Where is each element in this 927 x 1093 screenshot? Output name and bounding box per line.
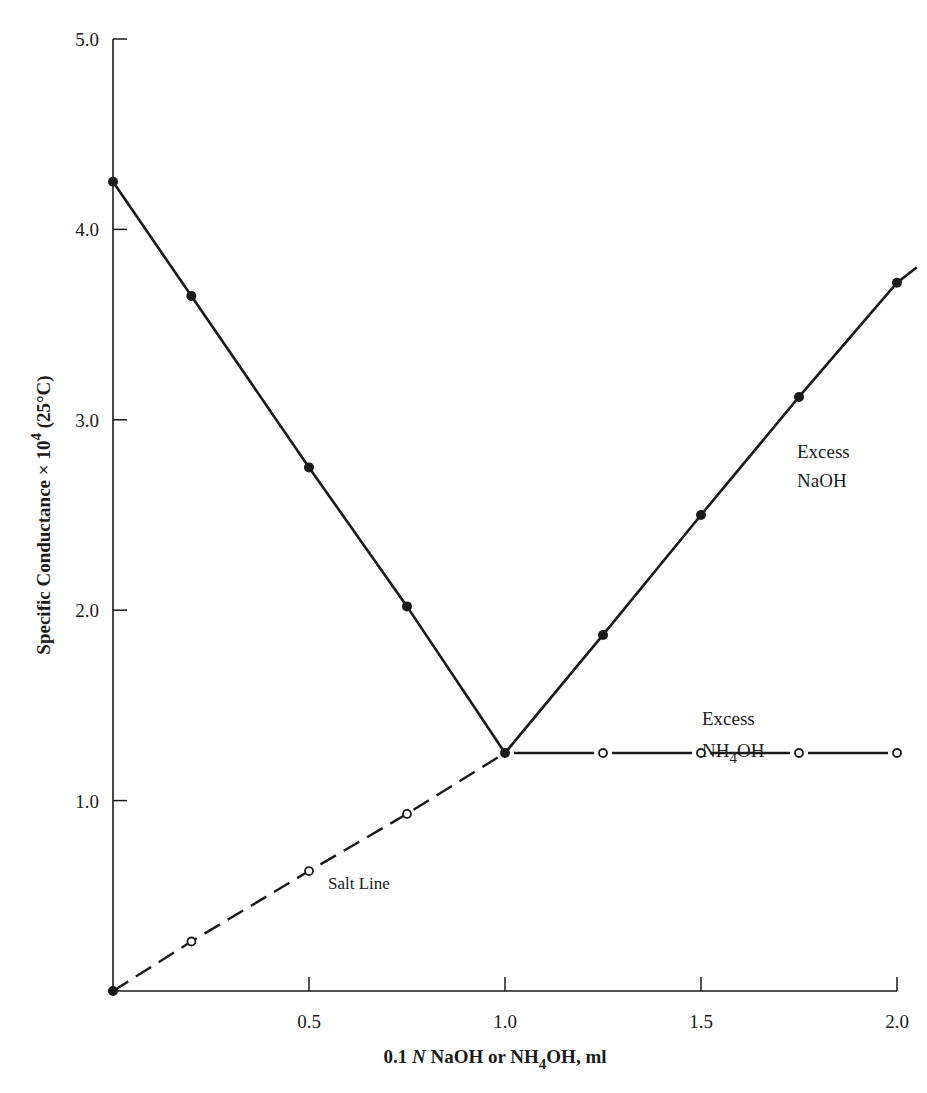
conductance-chart: 1.02.03.04.05.00.51.01.52.00.1 N NaOH or… [0, 0, 927, 1093]
salt-data-point [403, 810, 411, 818]
annotation-excess-naoh-line2: NaOH [797, 470, 847, 491]
annotation-salt-line: Salt Line [328, 874, 390, 893]
y-axis-title: Specific Conductance × 104 (25°C) [28, 375, 55, 654]
naoh-data-point [108, 177, 118, 187]
annotation-excess-nh4oh-line2: NH4OH [702, 740, 765, 766]
x-tick-label: 0.5 [297, 1011, 321, 1032]
annotation-excess-naoh-line1: Excess [797, 441, 850, 462]
nh4oh-data-point [599, 749, 607, 757]
naoh-data-point [892, 278, 902, 288]
salt-data-point [187, 937, 195, 945]
x-tick-label: 2.0 [885, 1011, 909, 1032]
naoh-data-point [500, 748, 510, 758]
y-tick-label: 5.0 [75, 29, 99, 50]
salt-origin-point [108, 986, 118, 996]
salt-data-point [305, 867, 313, 875]
annotations-layer: Excess NaOH Excess NH4OH Salt Line [328, 441, 850, 893]
nh4oh-data-point [795, 749, 803, 757]
naoh-data-point [186, 291, 196, 301]
naoh-data-point [402, 601, 412, 611]
x-tick-label: 1.5 [689, 1011, 713, 1032]
annotation-excess-nh4oh-line1: Excess [702, 708, 755, 729]
x-tick-label: 1.0 [493, 1011, 517, 1032]
y-tick-label: 2.0 [75, 600, 99, 621]
naoh-data-point [598, 630, 608, 640]
naoh-data-point [696, 510, 706, 520]
y-tick-label: 1.0 [75, 791, 99, 812]
naoh-data-point [304, 462, 314, 472]
naoh-data-point [794, 392, 804, 402]
x-axis-title: 0.1 N NaOH or NH4OH, ml [383, 1046, 606, 1072]
nh4oh-data-point [893, 749, 901, 757]
naoh-line [113, 182, 917, 753]
y-tick-label: 3.0 [75, 410, 99, 431]
series-layer [108, 177, 917, 996]
axes: 1.02.03.04.05.00.51.01.52.00.1 N NaOH or… [28, 29, 909, 1072]
y-tick-label: 4.0 [75, 219, 99, 240]
